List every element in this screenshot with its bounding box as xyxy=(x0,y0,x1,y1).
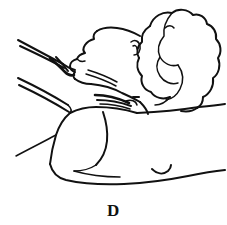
face-profile xyxy=(70,28,140,102)
forehead-contour xyxy=(97,28,140,36)
torso-and-bedding xyxy=(16,104,225,184)
line-art-illustration xyxy=(0,0,227,225)
chin-profile xyxy=(75,79,91,84)
bedding-fold-mark xyxy=(152,165,171,173)
curly-hair-mass xyxy=(137,10,220,112)
examiner-hand-fingers xyxy=(18,40,75,75)
figure-label: D xyxy=(0,202,227,219)
forearm-lines xyxy=(18,78,71,113)
figure-panel: D xyxy=(0,0,227,225)
nose-profile xyxy=(77,31,97,59)
